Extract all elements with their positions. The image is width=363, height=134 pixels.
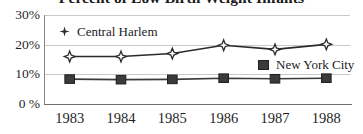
legend-item-central-harlem: Central Harlem xyxy=(59,25,158,38)
x-axis-tick-1985: 1985 xyxy=(147,107,198,131)
y-axis-tick-30: 30% xyxy=(0,7,40,23)
square-marker-icon xyxy=(258,60,269,70)
y-axis-tick-0: 0 % xyxy=(0,96,40,112)
chart-container: Percent of Low Birth Weight Infants 30% … xyxy=(0,0,363,134)
x-axis-tick-1983: 1983 xyxy=(44,107,95,131)
x-axis-tick-1984: 1984 xyxy=(95,107,146,131)
x-axis-tick-1988: 1988 xyxy=(301,107,352,131)
x-axis-tick-1986: 1986 xyxy=(198,107,249,131)
legend-label-central-harlem: Central Harlem xyxy=(77,25,158,38)
x-axis-tick-1987: 1987 xyxy=(249,107,300,131)
y-axis-tick-10: 10% xyxy=(0,66,40,82)
x-axis-labels: 1983 1984 1985 1986 1987 1988 xyxy=(44,107,352,131)
y-axis-tick-20: 20% xyxy=(0,37,40,53)
legend-label-new-york-city: New York City xyxy=(276,58,354,71)
legend-item-new-york-city: New York City xyxy=(258,58,354,71)
chart-title: Percent of Low Birth Weight Infants xyxy=(0,0,363,7)
x-axis-line xyxy=(44,104,352,105)
diamond-marker-icon xyxy=(59,26,70,37)
